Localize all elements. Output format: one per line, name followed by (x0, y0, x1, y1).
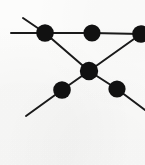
upper-middle-vertex (83, 24, 100, 41)
upper-left-vertex (36, 24, 54, 42)
graph-diagram-svg (0, 0, 145, 165)
lower-left-vertex (53, 81, 71, 99)
figure-container: graph-diagram (0, 0, 145, 165)
center-vertex (80, 62, 98, 80)
lower-right-vertex (108, 80, 125, 97)
